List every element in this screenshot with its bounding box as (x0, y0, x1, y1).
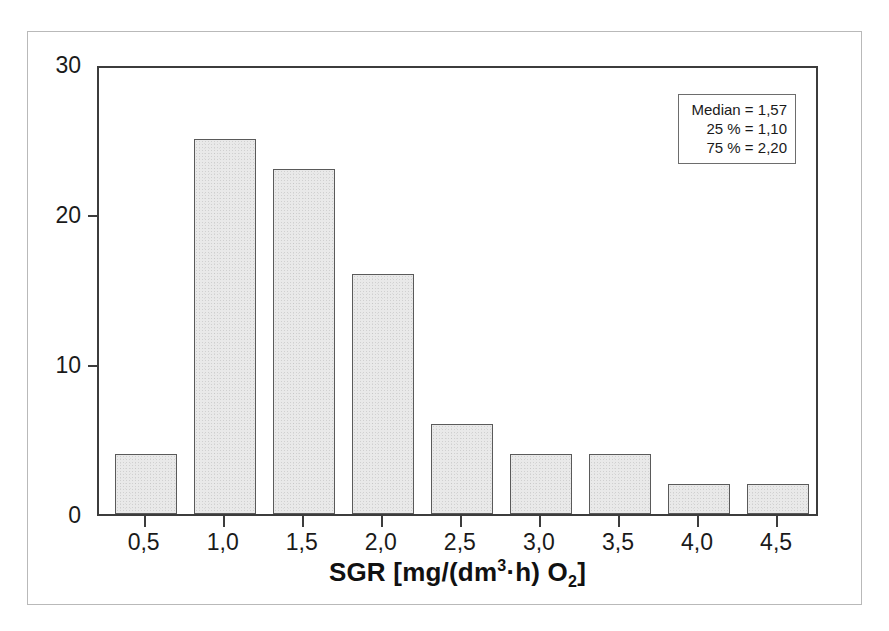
bar-3-5 (589, 454, 651, 514)
y-tick-label-20: 20 (0, 204, 81, 227)
y-tick-label-10: 10 (0, 354, 81, 377)
x-tick-mark-3-0 (539, 516, 541, 527)
x-axis-title-subscript: 2 (568, 572, 577, 590)
x-tick-mark-4-5 (776, 516, 778, 527)
x-tick-mark-2-0 (381, 516, 383, 527)
bar-4-5 (747, 484, 809, 514)
x-axis-title-main: SGR [mg/(dm (329, 557, 497, 587)
x-tick-label-1-5: 1,5 (262, 530, 341, 554)
x-tick-mark-2-5 (460, 516, 462, 527)
bar-2-0 (352, 274, 414, 514)
bar-0-5 (115, 454, 177, 514)
x-tick-label-0-5: 0,5 (104, 530, 183, 554)
x-axis-title-end: ] (577, 557, 586, 587)
figure-canvas: 0102030 0,51,01,52,02,53,03,54,04,5 SGR … (0, 0, 889, 631)
x-tick-label-3-0: 3,0 (499, 530, 578, 554)
bar-1-0 (194, 139, 256, 514)
x-tick-mark-1-5 (302, 516, 304, 527)
x-tick-label-4-5: 4,5 (737, 530, 816, 554)
bar-1-5 (273, 169, 335, 514)
bar-4-0 (668, 484, 730, 514)
x-axis-title: SGR [mg/(dm3·h) O2] (97, 556, 818, 591)
x-axis-title-mid: ·h) O (506, 557, 568, 587)
y-tick-label-30: 30 (0, 54, 81, 77)
x-tick-label-4-0: 4,0 (658, 530, 737, 554)
x-tick-mark-0-5 (144, 516, 146, 527)
x-tick-label-2-5: 2,5 (420, 530, 499, 554)
bar-2-5 (431, 424, 493, 514)
x-axis-title-superscript: 3 (497, 556, 506, 574)
x-tick-mark-1-0 (223, 516, 225, 527)
x-tick-mark-4-0 (697, 516, 699, 527)
x-tick-label-1-0: 1,0 (183, 530, 262, 554)
bar-3-0 (510, 454, 572, 514)
stats-percentile-75: 75 % = 2,20 (687, 138, 787, 157)
x-tick-mark-3-5 (618, 516, 620, 527)
statistics-box: Median = 1,57 25 % = 1,10 75 % = 2,20 (678, 94, 796, 164)
stats-median: Median = 1,57 (687, 100, 787, 119)
x-tick-label-3-5: 3,5 (578, 530, 657, 554)
x-tick-label-2-0: 2,0 (341, 530, 420, 554)
y-tick-label-0: 0 (0, 504, 81, 527)
stats-percentile-25: 25 % = 1,10 (687, 119, 787, 138)
